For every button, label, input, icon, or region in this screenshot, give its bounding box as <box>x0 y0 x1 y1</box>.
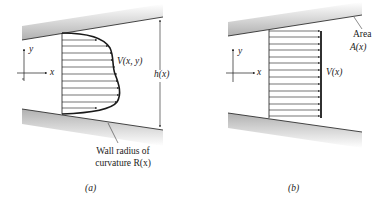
x-axis-label-b: x <box>257 68 261 78</box>
area-leader-line <box>354 17 362 29</box>
wall-label-line1: Wall radius of <box>88 147 158 157</box>
velocity-profile-a <box>62 33 120 114</box>
velocity-label-a: V(x, y) <box>117 57 142 67</box>
area-label-line1: Area <box>353 30 371 40</box>
panel-a <box>17 4 163 146</box>
diagram-canvas <box>0 0 392 205</box>
velocity-label-b: V(x) <box>326 68 342 78</box>
x-axis-label-a: x <box>50 68 54 78</box>
caption-b: (b) <box>288 184 299 194</box>
velocity-profile-b <box>269 30 321 118</box>
bottom-wall-shading-b <box>228 113 362 148</box>
wall-label-line2: curvature R(x) <box>88 159 158 169</box>
area-label-line2: A(x) <box>350 43 366 53</box>
y-axis-label-a: y <box>29 45 33 55</box>
bottom-wall-shading-a <box>22 109 163 146</box>
y-axis-label-b: y <box>238 47 242 57</box>
top-wall-shading-a <box>22 4 163 40</box>
caption-a: (a) <box>85 184 96 194</box>
height-label: h(x) <box>153 70 170 80</box>
